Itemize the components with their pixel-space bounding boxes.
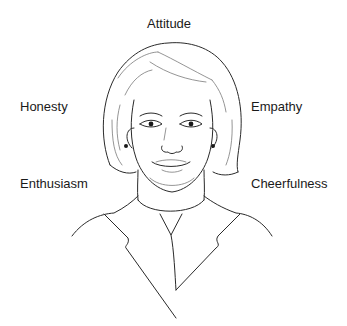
neck [138, 170, 205, 211]
trait-diagram: Attitude Honesty Empathy Enthusiasm Chee… [0, 0, 347, 326]
hair [103, 43, 241, 175]
jacket [72, 196, 272, 318]
woman-portrait-illustration [0, 0, 347, 326]
earring-right [211, 144, 215, 148]
label-attitude: Attitude [147, 17, 191, 30]
earring-left [124, 144, 128, 148]
label-enthusiasm: Enthusiasm [20, 177, 88, 190]
eye-left [140, 120, 162, 127]
label-honesty: Honesty [20, 100, 68, 113]
eye-right [180, 120, 202, 127]
label-empathy: Empathy [251, 100, 302, 113]
label-cheerfulness: Cheerfulness [251, 177, 328, 190]
